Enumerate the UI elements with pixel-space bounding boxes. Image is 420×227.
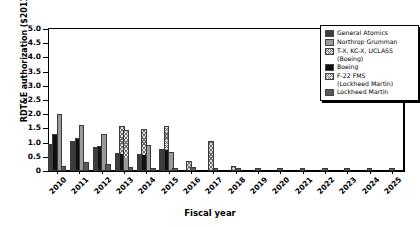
- bar-segment: [124, 158, 128, 170]
- x-tick-label-2019: 2019: [248, 175, 269, 196]
- bar-segment: [138, 155, 142, 170]
- legend-swatch: [325, 39, 334, 46]
- bar-segment: [84, 163, 88, 170]
- bar: [236, 169, 240, 170]
- bar-segment: [278, 169, 282, 170]
- x-tick-label-2025: 2025: [382, 175, 403, 196]
- y-tick-label: 1.0: [28, 139, 41, 147]
- x-tick-mark: [347, 171, 348, 174]
- bar-segment: [129, 168, 133, 170]
- bar-segment: [390, 169, 394, 170]
- bar: [147, 146, 151, 170]
- legend-label: F-22 FMS (Lockheed Martin): [337, 72, 393, 87]
- bar-segment: [209, 142, 213, 170]
- bar: [116, 154, 120, 170]
- x-tick-mark: [370, 171, 371, 174]
- x-tick-mark: [79, 171, 80, 174]
- bar: [62, 167, 66, 170]
- bar: [232, 167, 236, 170]
- legend-swatch: [325, 73, 334, 80]
- y-tick-label: 2.0: [28, 110, 41, 118]
- bar-segment: [102, 135, 106, 171]
- x-tick-mark: [191, 171, 192, 174]
- bar: [169, 153, 173, 170]
- bar: [173, 169, 177, 170]
- bar: [368, 169, 372, 170]
- x-tick-mark: [213, 171, 214, 174]
- y-tick-label: 5.0: [28, 25, 41, 33]
- x-tick-mark: [169, 171, 170, 174]
- legend-item: F-22 FMS (Lockheed Martin): [325, 72, 415, 87]
- bar-segment: [142, 155, 146, 170]
- bar: [106, 165, 110, 170]
- legend-item: Lockheed Martin: [325, 88, 415, 96]
- legend-swatch: [325, 48, 334, 55]
- x-tick-mark: [146, 171, 147, 174]
- x-tick-mark: [102, 171, 103, 174]
- bar-segment: [191, 168, 195, 170]
- bar-segment: [76, 139, 80, 170]
- bar-segment: [62, 167, 66, 170]
- bar-segment: [58, 115, 62, 170]
- bar-segment: [49, 145, 53, 170]
- y-tick-label: 4.0: [28, 54, 41, 62]
- bar: [120, 127, 124, 170]
- x-tick-label-2012: 2012: [92, 175, 113, 196]
- bar: [80, 126, 84, 170]
- bar-segment: [165, 150, 169, 170]
- legend-item: General Atomics: [325, 29, 415, 37]
- x-tick-label-2023: 2023: [337, 175, 358, 196]
- bar-segment: [301, 169, 305, 170]
- bar: [49, 145, 53, 170]
- x-tick-label-2011: 2011: [70, 175, 91, 196]
- bar: [53, 135, 57, 170]
- y-tick-label: 2.5: [28, 96, 41, 104]
- x-tick-label-2016: 2016: [181, 175, 202, 196]
- x-tick-label-2022: 2022: [315, 175, 336, 196]
- bar-segment: [71, 142, 75, 170]
- chart-legend: General AtomicsNorthrop GrummanT-X, KC-X…: [320, 25, 419, 101]
- bar: [301, 169, 305, 170]
- bar: [138, 155, 142, 170]
- bar-segment: [151, 169, 155, 170]
- bar: [191, 168, 195, 170]
- bar: [58, 115, 62, 170]
- bar: [151, 169, 155, 170]
- x-tick-mark: [392, 171, 393, 174]
- x-tick-label-2017: 2017: [204, 175, 225, 196]
- legend-swatch: [325, 30, 334, 37]
- bar-segment: [323, 169, 327, 170]
- bar-segment: [236, 169, 240, 170]
- bar: [98, 147, 102, 170]
- bar-segment: [120, 154, 124, 170]
- bar-segment: [169, 153, 173, 170]
- y-tick-label: 4.5: [28, 39, 41, 47]
- bar: [214, 169, 218, 170]
- x-tick-mark: [258, 171, 259, 174]
- y-tick-label: 1.5: [28, 125, 41, 133]
- legend-swatch: [325, 89, 334, 96]
- legend-label: Boeing: [337, 63, 358, 71]
- x-tick-label-2018: 2018: [226, 175, 247, 196]
- bar: [71, 142, 75, 170]
- y-tick-label: 0.5: [28, 153, 41, 161]
- x-axis-labels: 2010201120122013201420152016201720182019…: [48, 171, 405, 211]
- chart-root: RDT&E authorization ($2011B) 00.51.01.52…: [0, 0, 420, 227]
- bar: [124, 131, 128, 170]
- bar: [278, 169, 282, 170]
- bar: [165, 127, 169, 170]
- bar: [209, 142, 213, 170]
- bar-segment: [124, 131, 128, 158]
- x-tick-mark: [236, 171, 237, 174]
- bar-segment: [106, 165, 110, 170]
- bar: [256, 169, 260, 170]
- bar: [94, 148, 98, 170]
- bar: [142, 130, 146, 170]
- bar-segment: [53, 135, 57, 170]
- bar: [323, 169, 327, 170]
- bar-segment: [147, 146, 151, 170]
- bar-segment: [173, 169, 177, 170]
- bar-segment: [368, 169, 372, 170]
- legend-item: T-X, KC-X, UCLASS (Boeing): [325, 47, 415, 62]
- legend-label: Lockheed Martin: [337, 88, 388, 96]
